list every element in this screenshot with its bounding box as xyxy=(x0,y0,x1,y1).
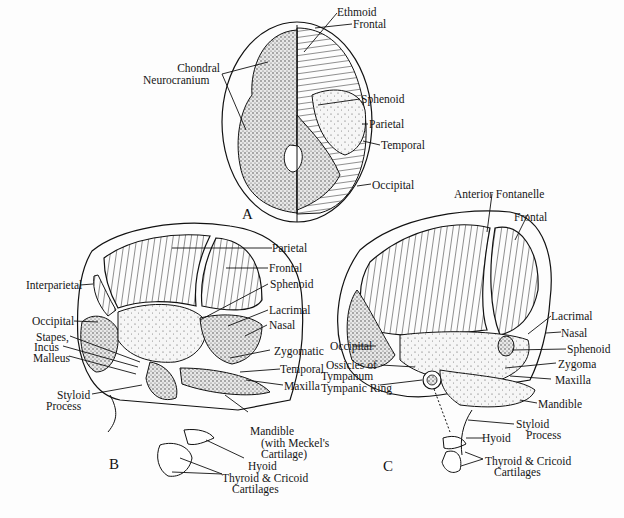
label-c-nasal: Nasal xyxy=(561,327,587,339)
label-a-neurocranium: Neurocranium xyxy=(143,74,209,86)
label-c-hyoid: Hyoid xyxy=(482,432,511,444)
label-a-parietal: Parietal xyxy=(369,118,404,130)
label-c-occipital: Occipital xyxy=(330,340,372,352)
label-b-maxilla: Maxilla xyxy=(284,380,320,392)
label-a-frontal: Frontal xyxy=(353,18,386,30)
label-b-sphenoid: Sphenoid xyxy=(270,278,313,290)
label-c-zygoma: Zygoma xyxy=(558,358,596,370)
label-c-anterior-fontanelle: Anterior Fontanelle xyxy=(454,188,544,200)
label-b-hyoid: Hyoid xyxy=(248,460,277,472)
label-c-mandible: Mandible xyxy=(538,398,582,410)
panel-a-skull-base xyxy=(222,22,372,222)
label-b-cartilages: Cartilages xyxy=(232,483,279,495)
panel-label-c: C xyxy=(383,458,393,475)
label-a-temporal: Temporal xyxy=(381,139,425,151)
label-b-malleus: Malleus xyxy=(33,352,70,364)
label-c-tympanic-ring: Tympanic Ring xyxy=(321,382,392,394)
panel-label-b: B xyxy=(109,456,119,473)
label-b-frontal: Frontal xyxy=(269,262,302,274)
label-c-process: Process xyxy=(526,429,561,441)
label-b-mandible: Mandible xyxy=(250,425,294,437)
label-a-ethmoid: Ethmoid xyxy=(337,6,377,18)
label-b-occipital: Occipital xyxy=(32,315,74,327)
label-b-meckel-2: Cartilage) xyxy=(261,448,307,460)
label-b-nasal: Nasal xyxy=(269,319,295,331)
label-a-sphenoid: Sphenoid xyxy=(361,93,404,105)
label-b-lacrimal: Lacrimal xyxy=(269,304,311,316)
label-c-cartilages: Cartilages xyxy=(494,466,541,478)
skull-development-figure: Ethmoid Frontal Chondral Neurocranium Sp… xyxy=(0,0,624,518)
label-b-interparietal: Interparietal xyxy=(26,279,82,291)
label-c-frontal: Frontal xyxy=(514,211,547,223)
label-b-temporal: Temporal xyxy=(280,363,324,375)
label-c-maxilla: Maxilla xyxy=(555,374,591,386)
label-b-parietal: Parietal xyxy=(272,242,307,254)
label-c-sphenoid: Sphenoid xyxy=(567,343,610,355)
panel-label-a: A xyxy=(242,206,253,223)
label-c-ossicles-2: Tympanum xyxy=(321,370,373,382)
label-c-lacrimal: Lacrimal xyxy=(551,310,593,322)
label-a-occipital: Occipital xyxy=(372,179,414,191)
label-b-process: Process xyxy=(46,400,81,412)
label-a-chondral: Chondral xyxy=(174,62,220,74)
label-b-zygomatic: Zygomatic xyxy=(274,345,324,357)
